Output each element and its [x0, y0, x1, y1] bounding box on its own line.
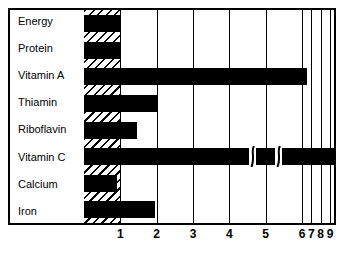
x-tick-label-6: 6 — [299, 228, 306, 240]
x-tick-label-4: 4 — [226, 228, 233, 240]
x-tick-label-1: 1 — [117, 228, 124, 240]
chart-frame — [8, 8, 336, 225]
bar-chart: Energy Protein Vitamin A Thiamin Ribofla… — [0, 0, 344, 261]
x-tick-label-5: 5 — [262, 228, 269, 240]
x-tick-label-9: 9 — [327, 228, 334, 240]
x-tick-label-8: 8 — [317, 228, 324, 240]
x-tick-label-7: 7 — [308, 228, 315, 240]
x-tick-label-2: 2 — [153, 228, 160, 240]
x-axis-tick-labels: 123456789 — [84, 228, 334, 248]
x-tick-label-3: 3 — [190, 228, 197, 240]
